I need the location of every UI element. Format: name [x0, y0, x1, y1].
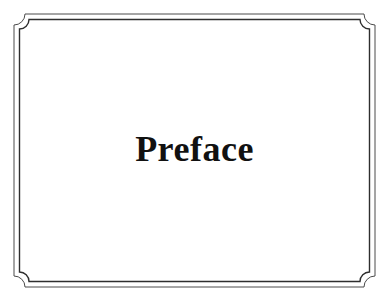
- preface-page: Preface: [0, 0, 389, 301]
- border-inner-rule: [20, 20, 370, 282]
- decorative-page-border: [0, 0, 389, 301]
- border-outer-rule: [14, 14, 375, 287]
